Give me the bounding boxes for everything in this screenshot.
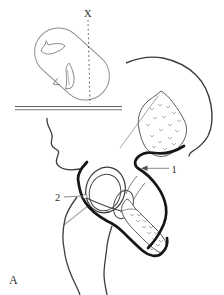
ischium-bone — [120, 199, 167, 252]
cross-section-outline — [25, 18, 120, 110]
pointer-2-marker-dot — [83, 194, 87, 198]
anatomical-diagram-panel: 1 2 X A — [0, 0, 224, 295]
table-surface-line — [15, 107, 122, 110]
pointer-2-label: 2 — [55, 192, 60, 203]
beam-label-x: X — [84, 8, 92, 19]
panel-letter: A — [9, 273, 18, 287]
crescent-inner-detail — [68, 70, 70, 85]
thigh-outline-left — [63, 197, 80, 295]
iliac-crescent-lower — [66, 63, 75, 89]
sacrum-outline — [138, 91, 186, 156]
hip-lateral-view-diagram: 1 2 X A — [0, 0, 224, 295]
iliac-crescent-upper — [41, 41, 65, 54]
sacrum-bone — [120, 91, 187, 156]
pointer-2-leader-line — [64, 196, 82, 197]
ramus-line-lower — [133, 183, 145, 201]
femoral-neck-axis-line — [64, 205, 89, 225]
pointer-1-label: 1 — [172, 164, 177, 175]
thigh-outline-right — [104, 226, 112, 295]
pelvis-cross-section-inset — [15, 18, 122, 110]
xray-beam-dotted-line — [88, 20, 90, 104]
anterior-body-outline — [47, 118, 87, 170]
ramus-line-upper — [126, 176, 137, 194]
